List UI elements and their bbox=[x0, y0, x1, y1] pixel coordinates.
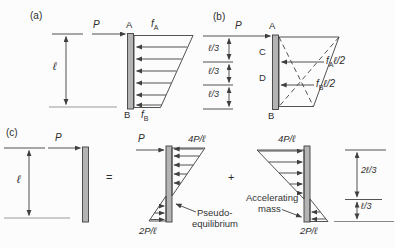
panel-b-resultant-top-label: fAℓ/2 bbox=[326, 56, 345, 68]
panel-b-force-P-label: P bbox=[235, 21, 242, 31]
panel-c-force-P-label: P bbox=[55, 133, 62, 143]
panel-b-dim-segment-2: ℓ/3 bbox=[201, 67, 219, 76]
panel-c-tag: (c) bbox=[6, 128, 18, 138]
length-fraction: ℓ/2 bbox=[333, 55, 345, 66]
pseudo-bottom-load-triangle bbox=[149, 196, 166, 221]
panel-b-node-A-label: A bbox=[269, 21, 275, 31]
panel-c-length-label: ℓ bbox=[17, 174, 21, 185]
inertia-bar bbox=[304, 146, 310, 222]
panel-a-diagram bbox=[49, 34, 193, 110]
panel-b-node-C-label: C bbox=[259, 47, 266, 57]
pseudo-bottom-intensity-label: 2P/ℓ bbox=[139, 226, 156, 236]
panel-a-node-B-label: B bbox=[124, 110, 130, 120]
equals-sign: = bbox=[106, 172, 112, 183]
inertia-dim-upper-label: 2ℓ/3 bbox=[361, 166, 376, 175]
panel-b-bar bbox=[273, 35, 279, 110]
inertia-caption-line2: mass bbox=[258, 204, 281, 214]
panel-a-force-P-label: P bbox=[93, 20, 100, 30]
length-fraction: ℓ/2 bbox=[323, 78, 335, 89]
panel-b-dim-segment-1: ℓ/3 bbox=[201, 44, 219, 53]
pseudo-top-load-triangle bbox=[172, 148, 205, 196]
pseudo-caption-line2: equilibrium bbox=[192, 219, 238, 229]
inertia-caption-leader-arrow bbox=[282, 210, 302, 218]
panel-a-load-trapezoid bbox=[134, 36, 193, 108]
pseudo-caption-line1: Pseudo- bbox=[197, 208, 232, 218]
panel-b-diagram bbox=[203, 35, 339, 110]
panel-b-node-B-label: B bbox=[268, 111, 274, 121]
panel-b-dim-segment-3: ℓ/3 bbox=[201, 90, 219, 99]
plus-sign: + bbox=[228, 172, 234, 183]
inertia-dim-lower-label: ℓ/3 bbox=[361, 202, 371, 211]
panel-a-load-arrows bbox=[137, 47, 188, 105]
panel-b-component-triangle-A-dashed bbox=[279, 37, 339, 107]
panel-a-node-A-label: A bbox=[126, 20, 132, 30]
pseudo-top-load-arrows bbox=[174, 149, 204, 183]
figure-canvas: (a) P A fA ℓ B fB (b) P A ℓ/3 ℓ/3 ℓ/3 C … bbox=[0, 0, 395, 248]
inertia-top-intensity-label: 4P/ℓ bbox=[278, 134, 295, 144]
subscript: A bbox=[154, 24, 159, 31]
panel-a-intensity-bottom-label: fB bbox=[141, 110, 148, 122]
inertia-top-load-arrows bbox=[259, 151, 303, 193]
pseudo-bar bbox=[166, 146, 172, 222]
pseudo-force-P-label: P bbox=[138, 134, 145, 144]
panel-a-intensity-top-label: fA bbox=[151, 19, 158, 31]
inertia-bottom-intensity-label: 2P/ℓ bbox=[300, 226, 317, 236]
panel-b-component-triangle-B-dashed bbox=[279, 37, 314, 107]
panel-a-bar bbox=[128, 34, 134, 110]
panel-b-tag: (b) bbox=[213, 12, 225, 22]
panel-b-node-D-label: D bbox=[259, 73, 266, 83]
subscript: B bbox=[144, 115, 149, 122]
panel-c-bar bbox=[83, 147, 89, 222]
pseudo-top-intensity-label: 4P/ℓ bbox=[188, 134, 205, 144]
panel-a-length-label: ℓ bbox=[53, 61, 57, 72]
pseudo-equilibrium-diagram bbox=[136, 146, 205, 222]
panel-a-tag: (a) bbox=[30, 11, 42, 21]
inertia-bottom-load-triangle bbox=[310, 199, 328, 222]
pseudo-caption-leader-arrow bbox=[176, 204, 196, 212]
panel-b-resultant-bottom-label: fBℓ/2 bbox=[316, 79, 335, 91]
inertia-caption-line1: Accelerating bbox=[246, 193, 298, 203]
